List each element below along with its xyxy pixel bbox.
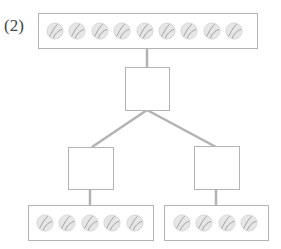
root-ball-row (46, 22, 248, 40)
baseball-icon (36, 214, 54, 232)
baseball-icon (126, 214, 144, 232)
baseball-icon (46, 22, 64, 40)
baseball-icon (103, 214, 121, 232)
baseball-icon (180, 22, 198, 40)
baseball-icon (81, 214, 99, 232)
baseball-icon (158, 22, 176, 40)
baseball-icon (173, 214, 191, 232)
baseball-icon (91, 22, 109, 40)
right-answer-box[interactable] (194, 146, 240, 190)
baseball-icon (195, 214, 213, 232)
baseball-icon (113, 22, 131, 40)
baseball-icon (225, 22, 243, 40)
baseball-icon (58, 214, 76, 232)
baseball-icon (240, 214, 258, 232)
baseball-icon (68, 22, 86, 40)
baseball-icon (136, 22, 154, 40)
baseball-icon (203, 22, 221, 40)
middle-answer-box[interactable] (125, 67, 170, 111)
leaf-left-ball-row (36, 214, 148, 232)
leaf-right-ball-row (173, 214, 263, 232)
left-answer-box[interactable] (68, 147, 114, 190)
baseball-icon (218, 214, 236, 232)
